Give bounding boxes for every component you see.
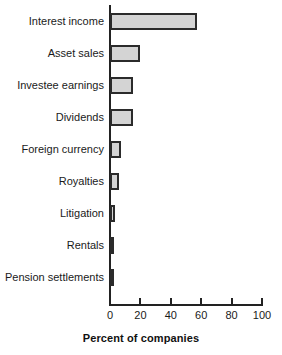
- bar-row: Litigation: [0, 205, 282, 222]
- bar-chart: Interest incomeAsset salesInvestee earni…: [0, 0, 282, 355]
- category-label: Litigation: [0, 204, 104, 223]
- x-axis-tick: [170, 298, 172, 305]
- bar: [110, 173, 119, 190]
- bar: [110, 141, 121, 158]
- bar: [110, 237, 114, 254]
- category-label: Asset sales: [0, 44, 104, 63]
- bar: [110, 45, 140, 62]
- x-axis-tick: [139, 298, 141, 305]
- x-axis-tick: [261, 298, 263, 305]
- x-axis-line: [109, 304, 263, 306]
- bar-row: Royalties: [0, 173, 282, 190]
- bar: [110, 109, 133, 126]
- bar: [110, 13, 197, 30]
- category-label: Foreign currency: [0, 140, 104, 159]
- x-axis-tick: [200, 298, 202, 305]
- category-label: Royalties: [0, 172, 104, 191]
- bar: [110, 205, 115, 222]
- bar: [110, 77, 133, 94]
- x-axis-tick: [109, 298, 111, 305]
- bar-row: Foreign currency: [0, 141, 282, 158]
- bar-row: Investee earnings: [0, 77, 282, 94]
- category-label: Dividends: [0, 108, 104, 127]
- category-label: Investee earnings: [0, 76, 104, 95]
- x-axis-tick-label: 100: [242, 309, 282, 322]
- bar: [110, 269, 114, 286]
- category-label: Pension settlements: [0, 268, 104, 287]
- category-label: Interest income: [0, 12, 104, 31]
- bar-row: Asset sales: [0, 45, 282, 62]
- bar-row: Rentals: [0, 237, 282, 254]
- bar-row: Interest income: [0, 13, 282, 30]
- category-label: Rentals: [0, 236, 104, 255]
- x-axis-tick: [231, 298, 233, 305]
- x-axis-title: Percent of companies: [0, 332, 282, 344]
- bar-row: Pension settlements: [0, 269, 282, 286]
- bar-row: Dividends: [0, 109, 282, 126]
